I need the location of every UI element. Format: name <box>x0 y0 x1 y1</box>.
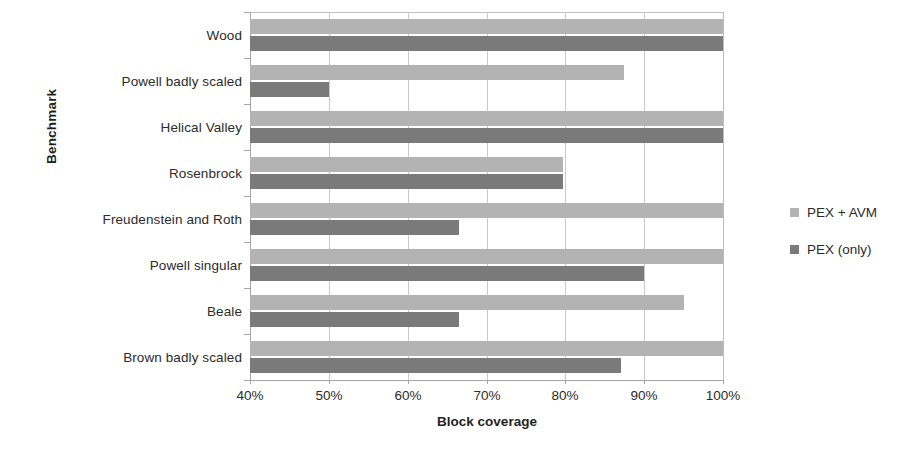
x-axis-tick <box>408 380 409 384</box>
category-label: Helical Valley <box>60 120 242 135</box>
x-axis-tick <box>250 380 251 384</box>
legend-item[interactable]: PEX (only) <box>790 242 900 257</box>
x-axis-tick <box>329 380 330 384</box>
legend-label: PEX (only) <box>807 242 872 257</box>
x-axis-tick-label: 50% <box>299 388 359 403</box>
bar <box>250 174 563 189</box>
bar <box>250 111 723 126</box>
category-axis-labels: WoodPowell badly scaledHelical ValleyRos… <box>60 12 242 380</box>
bar <box>250 220 459 235</box>
y-axis-tick <box>244 380 250 381</box>
x-axis-tick-label: 90% <box>614 388 674 403</box>
x-axis-title: Block coverage <box>250 414 724 429</box>
bar <box>250 358 621 373</box>
legend-item[interactable]: PEX + AVM <box>790 205 900 220</box>
category-label: Powell singular <box>60 258 242 273</box>
bar-chart: Benchmark WoodPowell badly scaledHelical… <box>0 0 907 455</box>
x-axis-tick <box>723 380 724 384</box>
category-label: Brown badly scaled <box>60 350 242 365</box>
bar <box>250 341 723 356</box>
legend-label: PEX + AVM <box>807 205 877 220</box>
bar <box>250 203 723 218</box>
bar <box>250 128 723 143</box>
gridline <box>723 12 724 380</box>
category-label: Beale <box>60 304 242 319</box>
chart-legend: PEX + AVMPEX (only) <box>790 205 900 279</box>
y-axis-tick <box>244 288 250 289</box>
bar <box>250 312 459 327</box>
legend-swatch-icon <box>790 208 799 217</box>
bar <box>250 19 723 34</box>
category-label: Powell badly scaled <box>60 74 242 89</box>
bar <box>250 36 723 51</box>
x-axis-tick-label: 70% <box>457 388 517 403</box>
category-label: Freudenstein and Roth <box>60 212 242 227</box>
category-label: Rosenbrock <box>60 166 242 181</box>
y-axis-tick <box>244 196 250 197</box>
category-label: Wood <box>60 28 242 43</box>
bar <box>250 249 723 264</box>
y-axis-tick <box>244 104 250 105</box>
bar <box>250 65 624 80</box>
x-axis-tick-label: 60% <box>378 388 438 403</box>
x-axis-tick-label: 80% <box>535 388 595 403</box>
x-axis-tick <box>644 380 645 384</box>
x-axis-tick <box>565 380 566 384</box>
y-axis-tick <box>244 12 250 13</box>
gridline <box>644 12 645 380</box>
legend-swatch-icon <box>790 245 799 254</box>
y-axis-tick <box>244 150 250 151</box>
y-axis-tick <box>244 242 250 243</box>
bar <box>250 157 563 172</box>
bar <box>250 266 644 281</box>
bar <box>250 82 329 97</box>
x-axis-tick <box>487 380 488 384</box>
x-axis-tick-label: 40% <box>220 388 280 403</box>
bar <box>250 295 684 310</box>
y-axis-tick <box>244 334 250 335</box>
y-axis-tick <box>244 58 250 59</box>
x-axis-tick-label: 100% <box>693 388 753 403</box>
